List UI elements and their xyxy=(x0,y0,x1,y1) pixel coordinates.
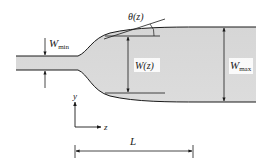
wz-label: W(z) xyxy=(135,60,155,72)
tapered-channel-diagram: Wmin θ(z) W(z) Wmax y z L xyxy=(0,0,272,161)
length-label: L xyxy=(129,135,136,147)
wmin-label: Wmin xyxy=(49,37,70,51)
z-axis-label: z xyxy=(103,122,108,132)
theta-label: θ(z) xyxy=(128,11,144,23)
y-axis-label: y xyxy=(72,91,77,101)
